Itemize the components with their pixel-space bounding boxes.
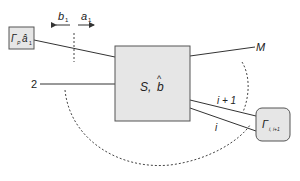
network-diagram: S, b ^ Γ P â 1 Γ i, i+1 b 1 a 1 2 M i + …: [0, 0, 300, 181]
port-M-label: M: [256, 41, 266, 53]
source-a-sub: 1: [29, 40, 32, 46]
dashed-arc-right: [242, 62, 248, 112]
port-i-plus-1-label: i + 1: [217, 95, 236, 106]
port-i-line: [190, 108, 256, 131]
scattering-label-s: S,: [140, 80, 151, 94]
wave-b-sub: 1: [65, 17, 69, 23]
scattering-block: [115, 46, 190, 121]
port-2-label: 2: [31, 78, 37, 90]
wave-a-label: a: [81, 10, 87, 22]
load-gamma-sub: i, i+1: [269, 126, 280, 132]
port-i-label: i: [215, 122, 218, 133]
load-gamma: Γ: [262, 118, 269, 130]
port-M-line: [190, 47, 255, 56]
source-a: â: [22, 33, 28, 44]
wave-b-label: b: [58, 10, 64, 22]
wave-a-sub: 1: [88, 17, 92, 23]
